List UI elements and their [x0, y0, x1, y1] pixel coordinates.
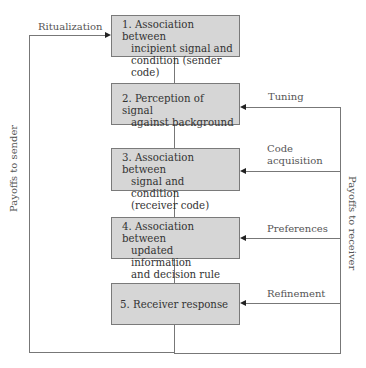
code-label: Code — [267, 143, 293, 155]
left-loop-vertical — [29, 35, 30, 353]
preferences-label: Preferences — [267, 223, 328, 235]
box-3-line-1: 3. Association between — [122, 152, 194, 175]
box-sender-code: 1. Association between incipient signal … — [111, 15, 240, 57]
box-1-line-3: condition (sender code) — [122, 55, 235, 79]
tuning-line — [246, 107, 341, 108]
code-acquisition-arrow-icon — [240, 168, 246, 174]
right-loop-bottom — [174, 353, 341, 354]
preferences-arrow-icon — [240, 235, 246, 241]
right-loop-vertical — [340, 107, 341, 354]
refinement-arrow-icon — [240, 300, 246, 306]
box-receiver-response: 5. Receiver response — [111, 283, 240, 325]
box-3-line-3: (receiver code) — [122, 200, 235, 212]
box-2-line-1: 2. Perception of signal — [122, 93, 204, 116]
tuning-arrow-icon — [240, 104, 246, 110]
box-5-line-1: 5. Receiver response — [120, 299, 228, 310]
box-receiver-code: 3. Association between signal and condit… — [111, 148, 240, 191]
box-1-line-1: 1. Association between — [122, 19, 194, 42]
box-decision-rule: 4. Association between updated informati… — [111, 217, 240, 259]
code-acquisition-line — [246, 171, 341, 172]
box-2-line-2: against background — [122, 117, 235, 129]
ritualization-label: Ritualization — [38, 21, 102, 33]
left-loop-bottom — [29, 352, 175, 353]
payoffs-to-receiver-label: Payoffs to receiver — [347, 176, 358, 270]
preferences-line — [246, 238, 341, 239]
acquisition-label: acquisition — [267, 155, 323, 167]
box-perception: 2. Perception of signal against backgrou… — [111, 83, 240, 125]
box-4-line-1: 4. Association between — [122, 221, 194, 244]
left-loop-top — [29, 35, 105, 36]
tuning-label: Tuning — [268, 91, 304, 103]
box-3-line-2: signal and condition — [122, 176, 235, 200]
box-1-line-2: incipient signal and — [122, 43, 235, 55]
refinement-label: Refinement — [267, 288, 325, 300]
payoffs-to-sender-label: Payoffs to sender — [8, 125, 19, 212]
box-4-line-3: and decision rule — [122, 269, 235, 281]
box-4-line-2: updated information — [122, 245, 235, 269]
refinement-line — [246, 303, 341, 304]
